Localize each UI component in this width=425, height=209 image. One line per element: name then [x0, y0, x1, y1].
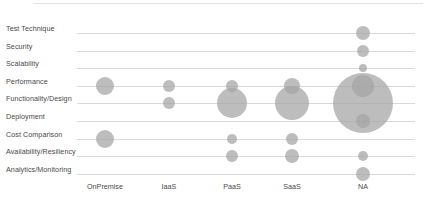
bubble-point	[356, 114, 370, 128]
bubble-point	[226, 150, 238, 162]
bubble-point	[227, 134, 237, 144]
x-axis-label: NA	[328, 182, 398, 191]
y-axis-label: Functionality/Design	[6, 94, 78, 103]
bubble-chart: Test TechniqueSecurityScalabilityPerform…	[0, 0, 425, 209]
bubble-point	[356, 26, 370, 40]
bubble-point	[284, 78, 300, 94]
bubble-point	[358, 151, 368, 161]
y-axis-label: Test Technique	[6, 24, 78, 33]
y-axis-label: Security	[6, 42, 78, 51]
x-axis-label: SaaS	[257, 182, 327, 191]
y-axis-label: Availability/Resiliency	[6, 147, 78, 156]
x-axis-label: OnPremise	[70, 182, 140, 191]
bubble-point	[163, 97, 175, 109]
bubble-point	[286, 133, 298, 145]
bubble-point	[352, 75, 374, 97]
bubble-point	[96, 77, 114, 95]
bubble-point	[285, 149, 299, 163]
bubble-point	[359, 64, 367, 72]
bubble-point	[357, 45, 369, 57]
bubble-point	[96, 130, 114, 148]
bubble-point	[217, 88, 247, 118]
y-axis-label: Deployment	[6, 112, 78, 121]
plot-area: Test TechniqueSecurityScalabilityPerform…	[0, 0, 425, 209]
bubble-point	[356, 167, 370, 181]
y-axis-label: Analytics/Monitoring	[6, 165, 78, 174]
y-axis-label: Cost Comparison	[6, 130, 78, 139]
x-axis-label: IaaS	[134, 182, 204, 191]
y-axis-label: Performance	[6, 77, 78, 86]
y-axis-label: Scalability	[6, 59, 78, 68]
gridline	[77, 139, 415, 140]
bubble-point	[163, 80, 175, 92]
bubble-point	[226, 80, 238, 92]
